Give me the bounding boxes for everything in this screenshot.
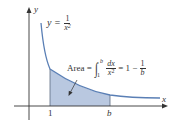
y-axis-arrow-icon	[27, 7, 32, 13]
x-axis-label: x	[162, 95, 166, 104]
integrand-exponent: 2	[111, 68, 114, 74]
x-tick-1: 1	[48, 109, 53, 118]
integral-sign: ∫ b 1	[94, 61, 102, 77]
area-label-equals: = 1 −	[118, 63, 137, 73]
area-label: Area = ∫ b 1 dx x2 = 1 − 1 b	[67, 60, 146, 77]
y-axis-label: y	[34, 5, 38, 14]
curve-label: y = 1 x2	[47, 15, 72, 32]
result-fraction: 1 b	[140, 60, 146, 77]
curve-label-lhs: y =	[47, 17, 61, 28]
x-tick-b: b	[107, 109, 112, 118]
result-denominator: b	[140, 69, 146, 77]
curve-label-fraction: 1 x2	[63, 15, 72, 32]
curve-label-denominator: x2	[63, 24, 72, 32]
integrand-fraction: dx x2	[106, 60, 116, 77]
integral-lower-limit: 1	[97, 72, 100, 78]
area-label-prefix: Area =	[67, 63, 92, 73]
integral-upper-limit: b	[100, 58, 103, 64]
x-axis-arrow-icon	[162, 104, 168, 109]
curve-label-exponent: 2	[68, 23, 71, 29]
integrand-denominator: x2	[107, 69, 116, 77]
